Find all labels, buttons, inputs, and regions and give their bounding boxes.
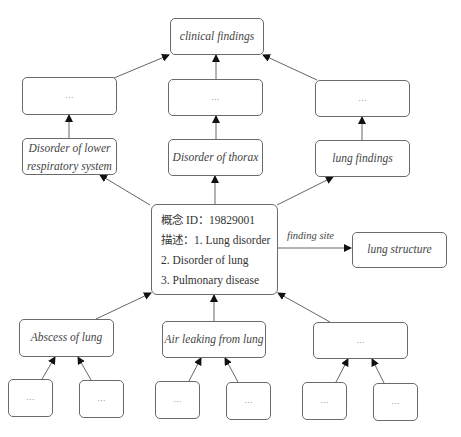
node-grandchild-4: ... [226, 382, 271, 420]
node-air-leaking-from-lung: Air leaking from lung [162, 321, 266, 358]
edge-child-left-to-concept [96, 293, 151, 319]
node-clinical-findings: clinical findings [170, 18, 264, 55]
edge-gc1 [42, 357, 55, 379]
node-lung-findings: lung findings [315, 140, 410, 177]
node-lung-structure: lung structure [352, 232, 447, 268]
node-level2-mid: ... [168, 79, 263, 116]
node-concept-19829001: 概念 ID：19829001 描述：1. Lung disorder 2. Di… [151, 204, 278, 295]
node-grandchild-2: ... [79, 380, 124, 418]
node-child-right: ... [313, 322, 408, 359]
node-grandchild-3: ... [155, 381, 200, 419]
node-disorder-of-thorax: Disorder of thorax [168, 139, 263, 176]
concept-id: 概念 ID：19829001 [161, 210, 277, 230]
edge-child-right-to-concept [278, 293, 330, 322]
edge-gc3 [189, 358, 201, 381]
node-abscess-of-lung: Abscess of lung [19, 319, 114, 357]
edge-gc2 [78, 357, 91, 380]
edge-label-finding-site: finding site [287, 230, 334, 241]
edge-gc4 [225, 358, 238, 382]
node-grandchild-1: ... [8, 379, 53, 417]
edge-concept-to-parent-right [277, 177, 333, 205]
edge-gc6 [372, 359, 384, 383]
node-disorder-lower-respiratory: Disorder of lower respiratory system [22, 138, 117, 175]
edge-gc5 [336, 359, 348, 382]
edge-level2-right-to-root [263, 55, 317, 80]
node-grandchild-6: ... [373, 383, 418, 421]
node-grandchild-5: ... [302, 382, 347, 420]
concept-desc-2: 2. Disorder of lung [161, 250, 277, 270]
node-label: clinical findings [180, 28, 254, 46]
concept-desc-1: 描述：1. Lung disorder [161, 230, 277, 250]
node-level2-left: ... [22, 77, 117, 115]
node-level2-right: ... [315, 80, 410, 117]
edge-level2-left-to-root [114, 55, 169, 78]
edge-concept-to-parent-left [100, 175, 150, 205]
concept-desc-3: 3. Pulmonary disease [161, 270, 277, 290]
